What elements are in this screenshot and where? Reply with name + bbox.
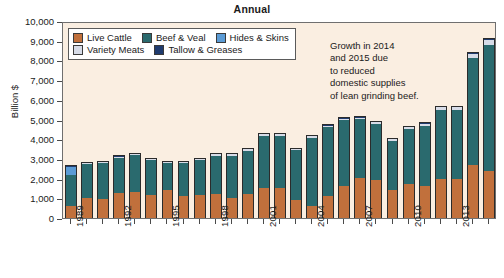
y-axis-tick-label: 1,000	[30, 193, 54, 204]
y-axis-tick-label: 3,000	[30, 154, 54, 165]
x-axis-tick-mark	[247, 219, 248, 224]
annotation-line: to reduced	[330, 65, 480, 77]
x-axis-tick-label: 2013	[460, 205, 471, 227]
bar	[290, 148, 302, 218]
bar-segment	[113, 158, 125, 193]
legend-swatch-icon	[73, 45, 83, 55]
legend-label: Beef & Veal	[156, 32, 206, 44]
bar-segment	[162, 163, 174, 190]
legend-swatch-icon	[154, 45, 164, 55]
bar	[387, 138, 399, 218]
x-axis-tick-label: 2010	[412, 205, 423, 227]
x-axis-tick-mark	[472, 219, 473, 224]
bar-segment	[290, 200, 302, 218]
x-axis-tick-mark	[279, 219, 280, 224]
bar-segment	[242, 151, 254, 194]
bar-segment	[306, 138, 318, 206]
bar-segment	[97, 163, 109, 199]
x-axis-tick-mark	[231, 219, 232, 224]
x-axis-tick-label: 2007	[363, 205, 374, 227]
bar-segment	[322, 127, 334, 196]
bar-segment	[435, 179, 447, 218]
bar	[97, 161, 109, 218]
x-axis-tick-mark	[134, 219, 135, 224]
y-axis-tick-label: 6,000	[30, 95, 54, 106]
bar-segment	[274, 136, 286, 188]
x-axis-tick-mark	[263, 219, 264, 224]
annual-stacked-bar-chart: Annual Billion $ 01,0002,0003,0004,0005,…	[0, 0, 504, 278]
x-axis-tick-mark	[70, 219, 71, 224]
x-axis-tick-mark	[118, 219, 119, 224]
x-axis-tick-mark	[456, 219, 457, 224]
bar	[451, 106, 463, 218]
bar-segment	[451, 110, 463, 179]
y-axis-title: Billion $	[9, 72, 20, 132]
bar	[435, 106, 447, 218]
x-axis-tick-mark	[183, 219, 184, 224]
legend-item[interactable]: Tallow & Greases	[154, 44, 242, 56]
legend-swatch-icon	[216, 33, 226, 43]
x-axis-tick-mark	[424, 219, 425, 224]
x-axis-tick-mark	[392, 219, 393, 224]
x-axis-tick-mark	[166, 219, 167, 224]
bar-segment	[210, 156, 222, 194]
bar-segment	[483, 45, 495, 171]
legend-label: Variety Meats	[87, 44, 144, 56]
legend-row-2: Variety MeatsTallow & Greases	[73, 44, 289, 56]
x-axis-tick-mark	[102, 219, 103, 224]
legend-item[interactable]: Live Cattle	[73, 32, 132, 44]
chart-annotation: Growth in 2014and 2015 dueto reduceddome…	[330, 40, 480, 102]
x-axis-tick-label: 1989	[74, 205, 85, 227]
legend-label: Tallow & Greases	[168, 44, 242, 56]
x-axis-tick-mark	[311, 219, 312, 224]
legend-item[interactable]: Beef & Veal	[142, 32, 206, 44]
bar-segment	[403, 129, 415, 185]
legend-item[interactable]: Variety Meats	[73, 44, 144, 56]
bar	[194, 158, 206, 218]
x-axis-tick-mark	[440, 219, 441, 224]
x-axis-tick-label: 1995	[170, 205, 181, 227]
bar-segment	[145, 160, 157, 195]
bar-segment	[226, 156, 238, 198]
x-axis-tick-mark	[86, 219, 87, 224]
bar-segment	[97, 199, 109, 218]
y-axis-tick-label: 0	[49, 213, 54, 224]
bar-segment	[419, 126, 431, 187]
y-axis-tick-label: 2,000	[30, 174, 54, 185]
bar-segment	[354, 119, 366, 178]
x-axis-tick-mark	[199, 219, 200, 224]
x-axis-tick-mark	[295, 219, 296, 224]
bar-segment	[194, 195, 206, 218]
x-axis-tick-label: 1992	[122, 205, 133, 227]
x-axis-tick-mark	[359, 219, 360, 224]
bar-segment	[129, 155, 141, 191]
legend-item[interactable]: Hides & Skins	[216, 32, 289, 44]
x-axis-tick-label: 2004	[315, 205, 326, 227]
legend-row-1: Live CattleBeef & VealHides & Skins	[73, 32, 289, 44]
annotation-line: of lean grinding beef.	[330, 90, 480, 102]
y-axis-tick-label: 7,000	[30, 75, 54, 86]
x-axis-tick-mark	[343, 219, 344, 224]
bar-segment	[65, 175, 77, 206]
bar-segment	[483, 171, 495, 218]
bar-segment	[370, 124, 382, 180]
bar-segment	[290, 150, 302, 199]
bar	[242, 148, 254, 218]
bar-segment	[435, 110, 447, 179]
x-axis-tick-mark	[488, 219, 489, 224]
bar-segment	[242, 194, 254, 218]
chart-title: Annual	[0, 3, 504, 15]
chart-legend: Live CattleBeef & VealHides & Skins Vari…	[68, 28, 296, 60]
y-axis-tick-label: 8,000	[30, 55, 54, 66]
annotation-line: Growth in 2014	[330, 40, 480, 52]
legend-label: Hides & Skins	[230, 32, 289, 44]
y-axis-tick-label: 9,000	[30, 36, 54, 47]
x-axis-tick-mark	[215, 219, 216, 224]
bar-segment	[387, 141, 399, 190]
bar-segment	[65, 167, 77, 175]
bar-segment	[178, 163, 190, 196]
bar-segment	[81, 164, 93, 198]
bar	[338, 117, 350, 218]
legend-label: Live Cattle	[87, 32, 132, 44]
bar-segment	[145, 195, 157, 218]
